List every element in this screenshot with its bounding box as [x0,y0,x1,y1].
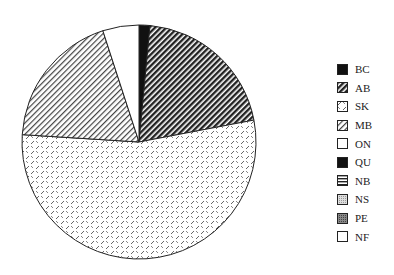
legend-label: MB [355,119,372,131]
legend-swatch-icon [337,213,348,224]
legend-swatch-icon [337,157,348,168]
legend-item-nf: NF [337,227,372,246]
legend-label: ON [355,138,371,150]
legend-label: NS [355,193,369,205]
legend-swatch-icon [337,194,348,205]
legend-label: PE [355,212,368,224]
legend-item-on: ON [337,134,372,153]
chart-legend: BCABSKMBONQUNBNSPENF [337,60,372,246]
legend-swatch-icon [337,231,348,242]
legend-item-ab: AB [337,79,372,98]
legend-item-sk: SK [337,97,372,116]
legend-item-bc: BC [337,60,372,79]
legend-label: BC [355,63,370,75]
legend-swatch-icon [337,138,348,149]
legend-item-nb: NB [337,172,372,191]
legend-item-pe: PE [337,209,372,228]
legend-swatch-icon [337,64,348,75]
legend-label: NF [355,231,369,243]
pie-chart [0,0,300,275]
legend-item-qu: QU [337,153,372,172]
legend-swatch-icon [337,101,348,112]
legend-swatch-icon [337,120,348,131]
legend-label: NB [355,175,370,187]
legend-label: AB [355,82,370,94]
legend-swatch-icon [337,175,348,186]
legend-label: QU [355,156,371,168]
legend-item-ns: NS [337,190,372,209]
legend-swatch-icon [337,82,348,93]
legend-label: SK [355,100,369,112]
legend-item-mb: MB [337,116,372,135]
